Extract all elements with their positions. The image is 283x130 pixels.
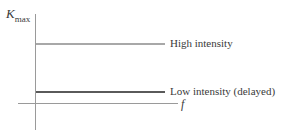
- y-axis: [35, 14, 36, 130]
- low-intensity-label: Low intensity (delayed): [170, 85, 275, 97]
- low-intensity-line: [36, 91, 165, 93]
- x-axis-label: f: [181, 97, 184, 112]
- x-axis: [18, 103, 178, 104]
- y-axis-label: Kmax: [6, 6, 30, 24]
- high-intensity-line: [36, 43, 165, 45]
- high-intensity-label: High intensity: [170, 37, 233, 49]
